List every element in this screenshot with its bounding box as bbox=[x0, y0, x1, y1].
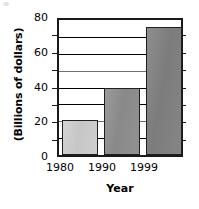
bar-chart: (Billions of dollars) 80 60 40 20 0 bbox=[0, 0, 199, 209]
x-tick-label-1999: 1999 bbox=[126, 161, 162, 174]
x-axis-title: Year bbox=[57, 182, 183, 195]
y-tick-label-60: 60 bbox=[18, 46, 48, 59]
bar-1980 bbox=[62, 120, 98, 155]
plot-area bbox=[57, 18, 183, 157]
scan-artifact bbox=[3, 2, 9, 6]
x-tick-label-1990: 1990 bbox=[84, 161, 120, 174]
y-tick-label-40: 40 bbox=[18, 81, 48, 94]
y-tick-label-20: 20 bbox=[18, 115, 48, 128]
x-tick-label-1980: 1980 bbox=[42, 161, 78, 174]
bar-1990 bbox=[104, 88, 140, 156]
y-tick-label-80: 80 bbox=[18, 11, 48, 24]
bar-1999 bbox=[146, 27, 182, 155]
